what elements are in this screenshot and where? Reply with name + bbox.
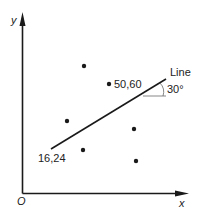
y-axis: y bbox=[10, 12, 26, 194]
x-axis: x O bbox=[17, 191, 189, 210]
angle-arc bbox=[160, 83, 164, 96]
line-start-label: 16,24 bbox=[38, 152, 66, 164]
line-label: Line bbox=[170, 66, 191, 78]
data-point bbox=[132, 127, 136, 131]
data-point bbox=[65, 119, 69, 123]
x-axis-label: x bbox=[178, 197, 185, 209]
point-label: 50,60 bbox=[114, 78, 142, 90]
data-point bbox=[82, 64, 86, 68]
data-point bbox=[81, 148, 85, 152]
y-axis-arrow-icon bbox=[20, 12, 26, 26]
origin-label: O bbox=[17, 195, 26, 207]
y-axis-label: y bbox=[10, 14, 18, 26]
angle-label: 30° bbox=[167, 83, 184, 95]
data-point bbox=[134, 159, 138, 163]
line-fit-diagram: y x O Line 16,24 30° 50,60 bbox=[0, 0, 207, 218]
x-axis-arrow-icon bbox=[175, 191, 189, 197]
data-points: 50,60 bbox=[65, 64, 142, 163]
data-point bbox=[107, 82, 111, 86]
